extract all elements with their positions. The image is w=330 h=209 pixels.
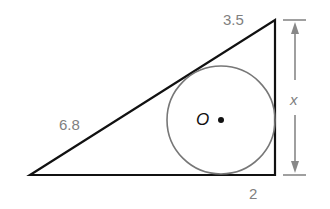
right-triangle [30,20,275,175]
label-height-x: x [290,92,298,107]
label-top-segment: 3.5 [223,12,244,27]
diagram-canvas: 3.5 6.8 2 x O [0,0,330,209]
center-point [218,117,224,123]
label-center-o: O [196,111,209,128]
label-hypotenuse-segment: 6.8 [59,117,80,132]
geometry-figure [0,0,330,209]
label-bottom-segment: 2 [249,186,257,201]
